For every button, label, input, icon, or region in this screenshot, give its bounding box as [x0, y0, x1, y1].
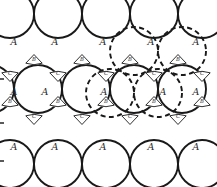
interstice-label: B [151, 98, 156, 104]
edge-tick [0, 78, 4, 80]
interstice-label: B [79, 56, 84, 62]
close-packed-sphere-figure: BBBBCCCCCBBBBBCCCCAAAAAAAAAAAAAAA [0, 0, 217, 187]
interstice-label: B [55, 98, 60, 104]
packing-diagram-svg: BBBBCCCCCBBBBBCCCCAAAAAAAAAAAAAAA [0, 0, 217, 187]
interstice-label: B [31, 56, 36, 62]
sphere-label: A [51, 141, 59, 152]
sphere-label: A [10, 86, 18, 97]
sphere-label: A [100, 86, 108, 97]
sphere-label: A [41, 86, 49, 97]
sphere-circle [82, 0, 130, 38]
sphere-label: A [192, 36, 200, 47]
interstice-label: B [7, 98, 12, 104]
interstice-label: B [103, 98, 108, 104]
sphere-label: A [192, 141, 200, 152]
sphere-circle [34, 0, 82, 38]
sphere-label: A [10, 141, 18, 152]
sphere-label: A [147, 36, 155, 47]
sphere-label: A [10, 36, 18, 47]
sphere-label: A [147, 141, 155, 152]
edge-tick [0, 122, 4, 124]
sphere-label: A [51, 36, 59, 47]
interstice-label: B [127, 56, 132, 62]
sphere-circle [130, 0, 178, 38]
sphere-layer [0, 0, 217, 187]
sphere-label: A [99, 141, 107, 152]
sphere-label: A [159, 86, 167, 97]
sphere-circle [0, 0, 34, 38]
interstice-label: B [175, 56, 180, 62]
sphere-label: A [99, 36, 107, 47]
edge-tick [0, 160, 4, 162]
interstice-label: B [199, 98, 204, 104]
sphere-label: A [192, 86, 200, 97]
